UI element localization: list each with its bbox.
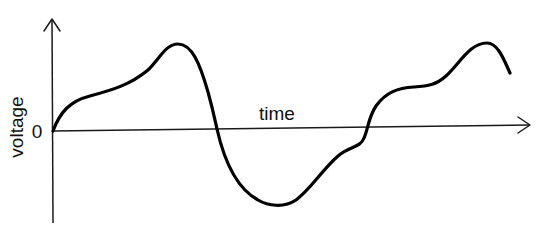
x-axis — [53, 125, 530, 131]
voltage-time-diagram: 0 time voltage — [0, 0, 542, 228]
y-axis-label: voltage — [6, 96, 27, 157]
x-axis-label: time — [259, 103, 295, 124]
origin-label: 0 — [32, 121, 43, 142]
voltage-waveform — [53, 43, 510, 205]
y-axis — [52, 19, 53, 223]
